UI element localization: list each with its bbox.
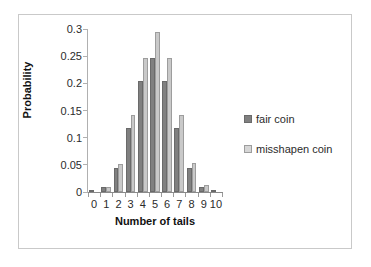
bar [118,164,123,192]
x-axis-tick [161,193,162,197]
x-axis-tick [88,193,89,197]
x-axis-tick [125,193,126,197]
x-axis-tick [173,193,174,197]
bar [211,190,216,192]
y-axis-tick-label: 0.2 [48,78,82,89]
x-axis-line [87,192,223,193]
bar [131,115,136,192]
x-axis-tick-label: 10 [208,198,224,210]
legend-label-misshapen-coin: misshapen coin [256,143,332,155]
x-axis-tick [149,193,150,197]
y-axis-tick-label: 0.1 [48,133,82,144]
legend-item-fair-coin: fair coin [244,112,364,126]
y-axis-tick-label: 0.15 [48,106,82,117]
x-axis-tick [112,193,113,197]
y-axis-tick-label: 0.05 [48,160,82,171]
bar [106,187,111,192]
x-axis-tick [100,193,101,197]
bar [192,163,197,192]
legend-swatch-fair-coin-icon [244,115,252,123]
bar [143,58,148,192]
y-axis-tick-label: 0 [48,187,82,198]
x-axis-tick [185,193,186,197]
bar [89,190,94,192]
bar [167,58,172,192]
legend-swatch-misshapen-coin-icon [244,145,252,153]
x-axis-tick [137,193,138,197]
bar [155,32,160,192]
bar-series-container [88,29,222,192]
y-axis-tick-label: 0.25 [48,51,82,62]
legend-label-fair-coin: fair coin [256,113,295,125]
x-axis-tick [222,193,223,197]
x-axis-tick [198,193,199,197]
y-axis-title: Probability [21,45,33,135]
y-axis-tick-label: 0.3 [48,24,82,35]
legend-item-misshapen-coin: misshapen coin [244,142,364,156]
bar-chart: 00.050.10.150.20.250.3 012345678910 Prob… [0,0,371,267]
bar [204,185,209,192]
chart-legend: fair coin misshapen coin [244,112,364,172]
x-axis-title: Number of tails [88,215,222,227]
bar [179,115,184,192]
x-axis-tick [210,193,211,197]
